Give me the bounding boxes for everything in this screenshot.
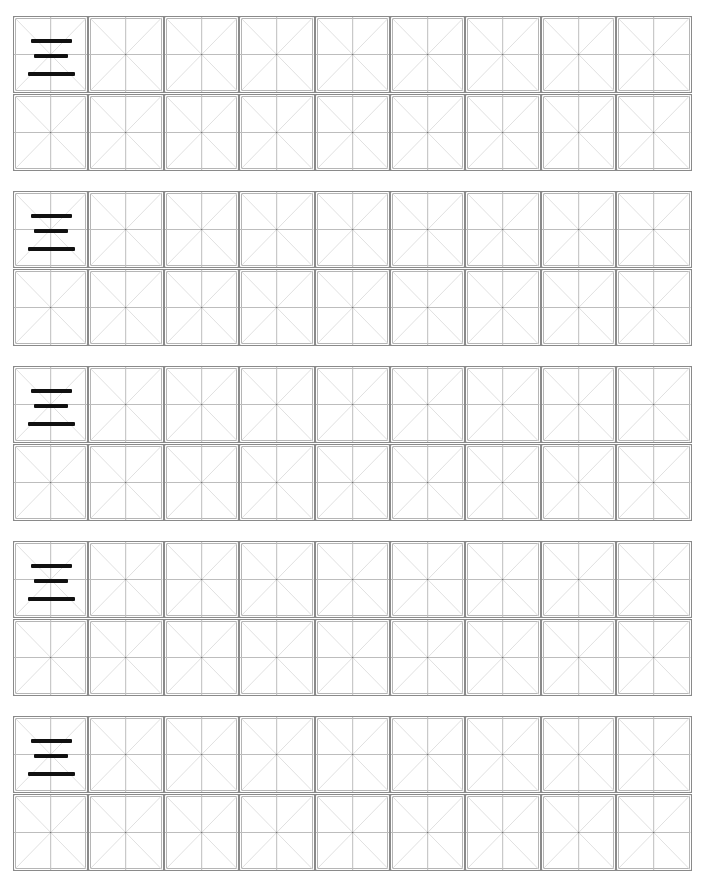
writing-cell[interactable] xyxy=(239,94,314,171)
writing-cell[interactable] xyxy=(164,794,239,871)
stroke-3 xyxy=(28,72,75,76)
writing-cell[interactable] xyxy=(541,716,616,793)
writing-cell[interactable] xyxy=(315,269,390,346)
writing-cell[interactable] xyxy=(541,16,616,93)
writing-cell[interactable] xyxy=(465,619,540,696)
writing-cell[interactable] xyxy=(616,16,691,93)
writing-cell[interactable] xyxy=(164,191,239,268)
writing-cell[interactable] xyxy=(390,16,465,93)
writing-cell[interactable] xyxy=(541,619,616,696)
writing-cell[interactable] xyxy=(541,94,616,171)
writing-cell[interactable] xyxy=(239,366,314,443)
writing-cell[interactable] xyxy=(465,366,540,443)
writing-cell[interactable] xyxy=(465,16,540,93)
writing-cell[interactable] xyxy=(616,794,691,871)
writing-cell[interactable] xyxy=(239,541,314,618)
writing-cell[interactable] xyxy=(88,541,163,618)
writing-cell[interactable] xyxy=(541,269,616,346)
writing-cell[interactable] xyxy=(88,191,163,268)
mi-grid-guides xyxy=(165,95,238,170)
writing-cell[interactable] xyxy=(88,716,163,793)
writing-cell[interactable] xyxy=(315,619,390,696)
writing-cell[interactable] xyxy=(88,619,163,696)
writing-cell[interactable] xyxy=(315,16,390,93)
writing-cell[interactable] xyxy=(465,191,540,268)
writing-cell[interactable] xyxy=(390,269,465,346)
writing-cell[interactable] xyxy=(465,716,540,793)
writing-cell[interactable] xyxy=(164,541,239,618)
writing-cell[interactable] xyxy=(13,794,88,871)
writing-cell[interactable] xyxy=(88,444,163,521)
writing-cell[interactable] xyxy=(616,541,691,618)
writing-cell[interactable] xyxy=(315,366,390,443)
writing-cell[interactable] xyxy=(390,619,465,696)
writing-cell[interactable] xyxy=(315,191,390,268)
writing-cell[interactable] xyxy=(465,444,540,521)
writing-cell[interactable] xyxy=(541,541,616,618)
mi-grid-guides xyxy=(617,270,690,345)
writing-cell[interactable] xyxy=(164,619,239,696)
writing-cell[interactable] xyxy=(465,794,540,871)
writing-cell[interactable] xyxy=(616,366,691,443)
writing-cell[interactable] xyxy=(239,191,314,268)
writing-cell[interactable] xyxy=(239,16,314,93)
writing-cell[interactable] xyxy=(541,444,616,521)
writing-cell[interactable] xyxy=(164,366,239,443)
writing-cell[interactable] xyxy=(88,16,163,93)
writing-cell[interactable] xyxy=(164,94,239,171)
mi-grid-guides xyxy=(316,445,389,520)
writing-cell[interactable] xyxy=(239,619,314,696)
practice-row xyxy=(13,366,692,443)
writing-cell[interactable] xyxy=(315,444,390,521)
mi-grid-guides xyxy=(316,17,389,92)
mi-grid-guides xyxy=(240,367,313,442)
writing-cell[interactable] xyxy=(315,541,390,618)
writing-cell[interactable] xyxy=(465,269,540,346)
model-character-cell xyxy=(13,716,88,793)
writing-cell[interactable] xyxy=(88,94,163,171)
writing-cell[interactable] xyxy=(164,269,239,346)
writing-cell[interactable] xyxy=(88,366,163,443)
writing-cell[interactable] xyxy=(390,794,465,871)
writing-cell[interactable] xyxy=(239,716,314,793)
mi-grid-guides xyxy=(391,95,464,170)
writing-cell[interactable] xyxy=(164,16,239,93)
writing-cell[interactable] xyxy=(541,794,616,871)
writing-cell[interactable] xyxy=(164,716,239,793)
writing-cell[interactable] xyxy=(390,366,465,443)
writing-cell[interactable] xyxy=(616,716,691,793)
writing-cell[interactable] xyxy=(616,619,691,696)
writing-cell[interactable] xyxy=(239,269,314,346)
writing-cell[interactable] xyxy=(88,794,163,871)
writing-cell[interactable] xyxy=(239,444,314,521)
writing-cell[interactable] xyxy=(239,794,314,871)
mi-grid-guides xyxy=(316,795,389,870)
mi-grid-guides xyxy=(240,270,313,345)
writing-cell[interactable] xyxy=(315,716,390,793)
writing-cell[interactable] xyxy=(390,444,465,521)
writing-cell[interactable] xyxy=(616,269,691,346)
writing-cell[interactable] xyxy=(616,94,691,171)
writing-cell[interactable] xyxy=(465,541,540,618)
writing-cell[interactable] xyxy=(541,366,616,443)
writing-cell[interactable] xyxy=(390,716,465,793)
writing-cell[interactable] xyxy=(390,94,465,171)
writing-cell[interactable] xyxy=(164,444,239,521)
writing-cell[interactable] xyxy=(315,794,390,871)
writing-cell[interactable] xyxy=(13,94,88,171)
mi-grid-guides xyxy=(14,795,87,870)
writing-cell[interactable] xyxy=(13,619,88,696)
writing-cell[interactable] xyxy=(390,541,465,618)
writing-cell[interactable] xyxy=(13,444,88,521)
writing-cell[interactable] xyxy=(616,444,691,521)
writing-cell[interactable] xyxy=(315,94,390,171)
writing-cell[interactable] xyxy=(390,191,465,268)
writing-cell[interactable] xyxy=(88,269,163,346)
practice-row xyxy=(13,269,692,346)
mi-grid-guides xyxy=(542,367,615,442)
writing-cell[interactable] xyxy=(465,94,540,171)
writing-cell[interactable] xyxy=(13,269,88,346)
writing-cell[interactable] xyxy=(541,191,616,268)
practice-row xyxy=(13,794,692,871)
writing-cell[interactable] xyxy=(616,191,691,268)
